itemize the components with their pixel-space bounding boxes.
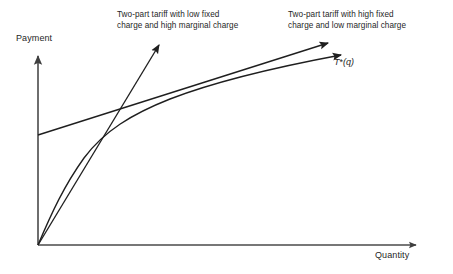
left-annotation: Two-part tariff with low fixed charge an… [117,9,238,31]
shallow-tariff-line-group [38,43,328,135]
y-axis-label: Payment [16,33,52,43]
shallow-tariff-line [38,43,328,135]
optimal-tariff-curve-group [38,55,341,245]
left-annotation-line1: Two-part tariff with low fixed [117,9,238,20]
optimal-tariff-curve [38,55,341,245]
tariff-diagram [0,0,453,274]
steep-tariff-line [38,45,159,245]
curve-label-argument: (q) [343,57,354,67]
right-annotation: Two-part tariff with high fixed charge a… [288,9,406,31]
left-annotation-line2: charge and high marginal charge [117,20,238,31]
steep-tariff-line-group [38,45,159,245]
right-annotation-line2: charge and low marginal charge [288,20,406,31]
right-annotation-line1: Two-part tariff with high fixed [288,9,406,20]
x-axis-label: Quantity [375,250,409,260]
optimal-tariff-curve-label: T*(q) [334,57,354,67]
